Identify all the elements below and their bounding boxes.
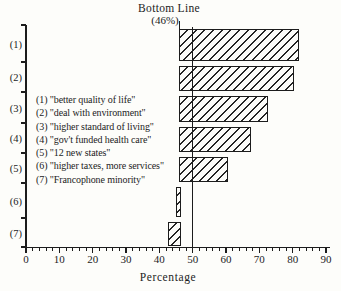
x-minor-tick (39, 248, 40, 251)
x-minor-tick (72, 248, 73, 251)
x-minor-tick (219, 248, 220, 251)
x-minor-tick (166, 248, 167, 251)
y-axis-line (25, 25, 26, 248)
x-minor-tick (172, 248, 173, 251)
x-minor-tick (279, 248, 280, 251)
x-minor-tick (152, 248, 153, 251)
majority-reference-line (192, 27, 193, 247)
x-minor-tick (186, 248, 187, 251)
legend-item-2: (2) "deal with environment" (36, 106, 164, 119)
x-minor-tick (319, 248, 320, 251)
x-major-tick (192, 248, 193, 253)
x-minor-tick (106, 248, 107, 251)
x-tick-label: 70 (254, 253, 265, 265)
y-axis-tick (21, 217, 27, 218)
x-major-tick (92, 248, 93, 253)
x-minor-tick (99, 248, 100, 251)
x-minor-tick (86, 248, 87, 251)
bar-5 (179, 157, 227, 182)
x-minor-tick (32, 248, 33, 251)
x-minor-tick (246, 248, 247, 251)
category-label-3: (3) (0, 102, 22, 113)
bottom-line-tick (179, 21, 180, 32)
x-minor-tick (266, 248, 267, 251)
x-major-tick (59, 248, 60, 253)
x-minor-tick (46, 248, 47, 251)
legend-item-3: (3) "higher standard of living" (36, 120, 164, 133)
bar-1 (179, 29, 299, 61)
x-minor-tick (286, 248, 287, 251)
bar-7 (168, 222, 181, 246)
legend-item-6: (6) "higher taxes, more services" (36, 159, 164, 172)
legend-item-1: (1) "better quality of life" (36, 93, 164, 106)
y-axis-tick (21, 61, 27, 62)
x-tick-label: 40 (154, 253, 165, 265)
x-axis-label: Percentage (140, 271, 196, 283)
x-major-tick (125, 248, 126, 253)
x-minor-tick (179, 248, 180, 251)
legend-item-5: (5) "12 new states" (36, 146, 164, 159)
x-minor-tick (139, 248, 140, 251)
x-tick-label: 10 (54, 253, 65, 265)
y-axis-tick (21, 122, 27, 123)
x-minor-tick (79, 248, 80, 251)
category-label-2: (2) (0, 72, 22, 83)
x-major-tick (25, 248, 26, 253)
category-label-4: (4) (0, 133, 22, 144)
x-tick-label: 50 (187, 253, 198, 265)
category-label-1: (1) (0, 38, 22, 49)
bar-chart-figure: Bottom Line (46%) (1)(2)(3)(4)(5)(6)(7)0… (0, 0, 341, 291)
legend-item-4: (4) "gov't funded health care" (36, 133, 164, 146)
x-minor-tick (119, 248, 120, 251)
x-minor-tick (232, 248, 233, 251)
x-tick-label: 80 (287, 253, 298, 265)
x-minor-tick (146, 248, 147, 251)
x-minor-tick (199, 248, 200, 251)
x-minor-tick (66, 248, 67, 251)
x-major-tick (259, 248, 260, 253)
x-minor-tick (306, 248, 307, 251)
legend: (1) "better quality of life" (2) "deal w… (36, 93, 164, 186)
x-minor-tick (132, 248, 133, 251)
y-axis-tick (21, 24, 27, 25)
bar-6 (176, 187, 181, 217)
bar-2 (179, 66, 294, 91)
x-major-tick (225, 248, 226, 253)
legend-item-7: (7) "Francophone minority" (36, 173, 164, 186)
y-axis-tick (21, 182, 27, 183)
x-minor-tick (206, 248, 207, 251)
category-label-6: (6) (0, 195, 22, 206)
x-tick-label: 0 (23, 253, 29, 265)
x-major-tick (159, 248, 160, 253)
x-major-tick (292, 248, 293, 253)
x-minor-tick (112, 248, 113, 251)
x-minor-tick (212, 248, 213, 251)
x-minor-tick (312, 248, 313, 251)
x-minor-tick (272, 248, 273, 251)
x-minor-tick (299, 248, 300, 251)
y-axis-tick (21, 152, 27, 153)
x-tick-label: 60 (221, 253, 232, 265)
category-label-5: (5) (0, 163, 22, 174)
bar-4 (179, 127, 251, 152)
x-tick-label: 90 (321, 253, 332, 265)
y-axis-tick (21, 91, 27, 92)
x-minor-tick (52, 248, 53, 251)
x-major-tick (325, 248, 326, 253)
x-minor-tick (239, 248, 240, 251)
x-minor-tick (252, 248, 253, 251)
category-label-7: (7) (0, 227, 22, 238)
x-tick-label: 30 (121, 253, 132, 265)
x-tick-label: 20 (87, 253, 98, 265)
